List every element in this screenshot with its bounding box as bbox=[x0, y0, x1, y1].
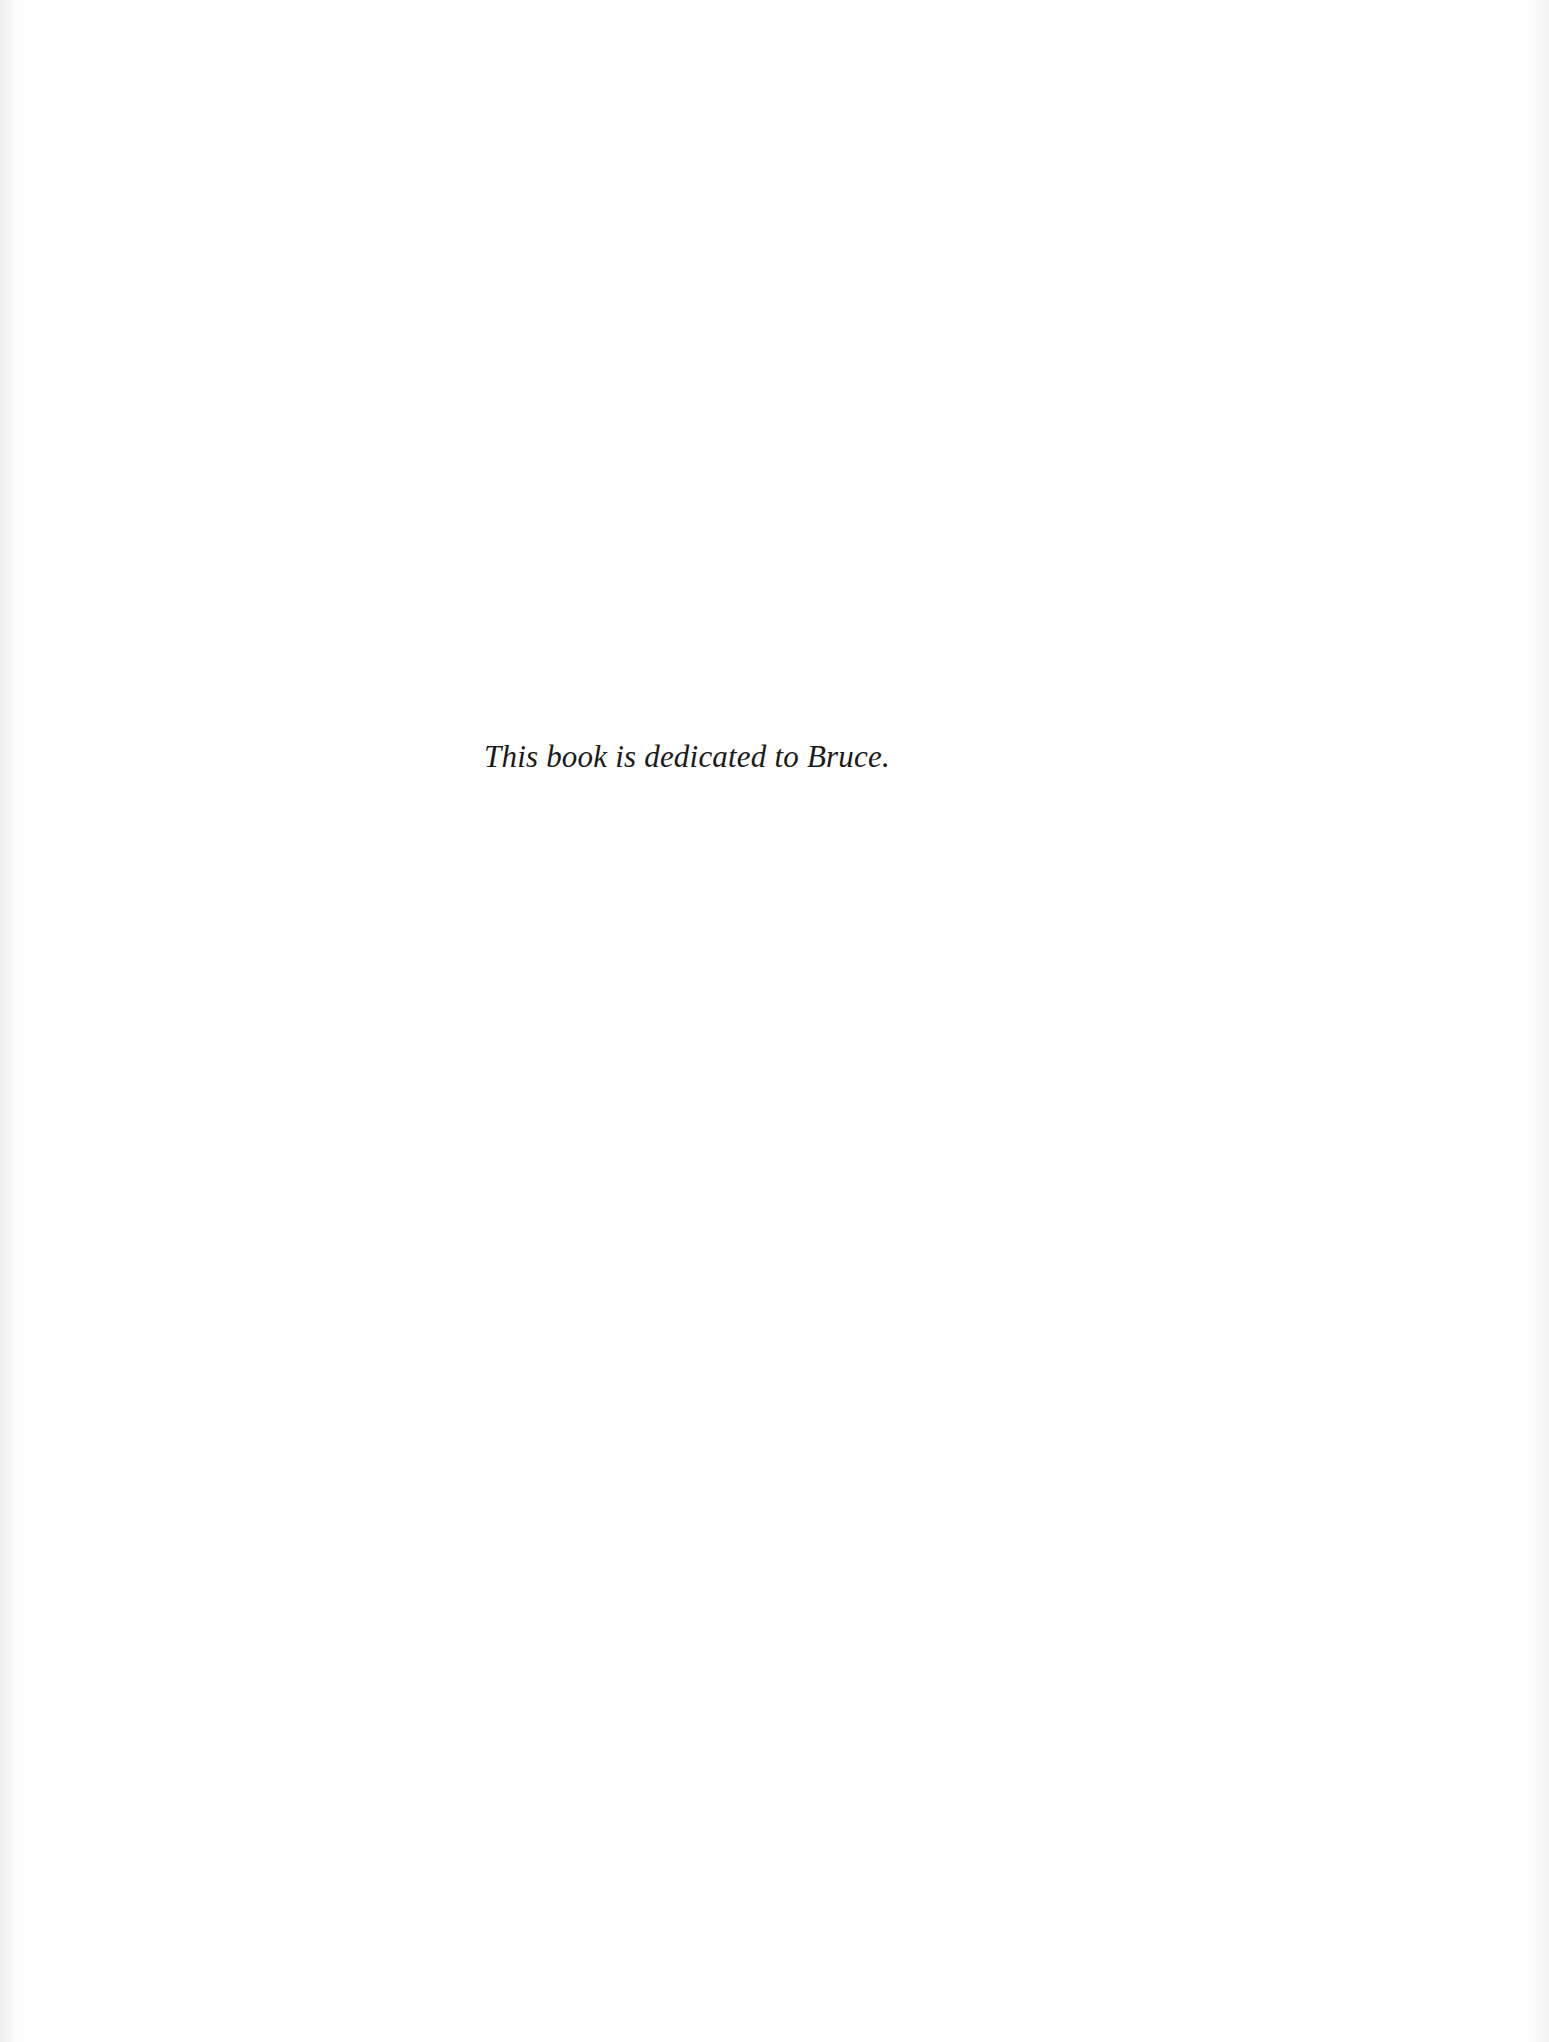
scan-shadow-left bbox=[0, 0, 18, 2042]
book-page: This book is dedicated to Bruce. bbox=[0, 0, 1549, 2042]
dedication-text: This book is dedicated to Bruce. bbox=[484, 738, 964, 776]
scan-shadow-right bbox=[1527, 0, 1549, 2042]
